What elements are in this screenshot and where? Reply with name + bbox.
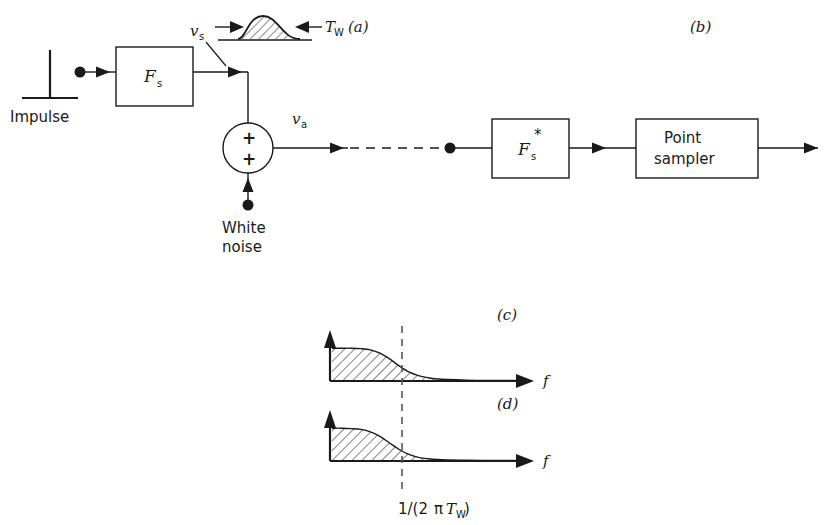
block-filter-fs-label: F [143, 66, 157, 86]
arrow-pulse-width-left [230, 21, 244, 33]
arrow-white-noise-in [243, 178, 254, 192]
spectrum-d-fill [332, 428, 524, 461]
pulse-shape-inset [215, 16, 322, 40]
block-point-sampler[interactable] [636, 119, 758, 178]
signal-va-label: v [292, 110, 301, 128]
white-noise-label-line2: noise [222, 238, 262, 256]
summing-plus-top: + [242, 128, 256, 148]
impulse-node-dot [75, 67, 86, 78]
spectrum-d-xaxis-label: f [542, 452, 551, 470]
arrow-fsstar-output [592, 143, 606, 154]
cutoff-frequency-label: 1/(2 π T W ) [398, 500, 470, 520]
arrow-pulse-width-right [295, 21, 309, 33]
spectrum-c-fill [332, 348, 524, 381]
spectrum-c-xaxis-label: f [542, 372, 551, 390]
vs-leader-line [206, 42, 226, 66]
summing-plus-bottom: + [242, 149, 256, 169]
white-noise-label-line1: White [222, 219, 266, 237]
panel-label-a: (a) [348, 18, 369, 36]
point-sampler-label-line2: sampler [654, 150, 716, 168]
cutoff-suffix: ) [464, 500, 470, 518]
panel-label-b: (b) [690, 18, 711, 36]
block-filter-fs-star-superscript: * [534, 126, 542, 144]
arrow-summer-output [330, 143, 344, 154]
arrow-spectrum-c-yaxis [324, 330, 336, 348]
arrow-impulse-to-fs [96, 67, 110, 78]
impulse-source-symbol [22, 50, 78, 98]
arrow-fs-output [228, 67, 242, 78]
panel-label-d: (d) [497, 395, 518, 413]
arrow-spectrum-d-yaxis [324, 410, 336, 428]
pulse-hump-shape [238, 16, 300, 39]
cutoff-pi-symbol: π [434, 500, 443, 518]
block-filter-fs-star[interactable] [492, 119, 569, 178]
impulse-source-label: Impulse [10, 108, 69, 126]
panel-b-input-node-dot [445, 143, 456, 154]
figure-container: Impulse F s v s T W (a) [0, 0, 832, 525]
signal-vs-label: v [190, 22, 199, 40]
arrow-spectrum-d-xaxis [516, 454, 534, 468]
block-filter-fs-star-subscript: s [531, 151, 536, 162]
signal-va-subscript: a [301, 119, 307, 130]
arrow-sampler-output [804, 143, 818, 154]
pulse-width-subscript: W [334, 27, 344, 38]
white-noise-node-dot [243, 200, 254, 211]
panel-label-c: (c) [497, 306, 517, 324]
block-filter-fs-star-label: F [517, 139, 531, 159]
signal-vs-subscript: s [199, 31, 204, 42]
diagram-svg: Impulse F s v s T W (a) [0, 0, 832, 525]
block-filter-fs-subscript: s [157, 78, 162, 89]
cutoff-prefix: 1/(2 [398, 500, 428, 518]
arrow-spectrum-c-xaxis [516, 374, 534, 388]
point-sampler-label-line1: Point [664, 129, 701, 147]
spectrum-plot-d: f [324, 410, 551, 470]
spectrum-plot-c: f [324, 330, 551, 390]
